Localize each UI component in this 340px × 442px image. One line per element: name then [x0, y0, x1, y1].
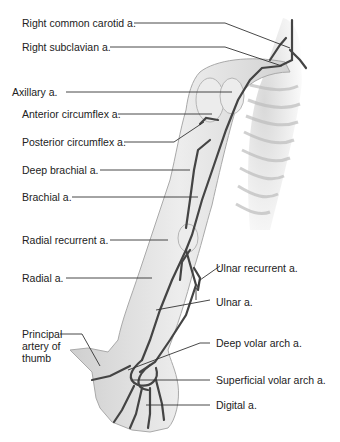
- label-principal-artery-thumb: Principal artery of thumb: [22, 328, 72, 364]
- label-radial-recurrent: Radial recurrent a.: [22, 234, 108, 246]
- label-deep-brachial: Deep brachial a.: [22, 164, 98, 176]
- label-superficial-volar-arch: Superficial volar arch a.: [216, 374, 326, 386]
- label-brachial: Brachial a.: [22, 191, 72, 203]
- label-right-subclavian: Right subclavian a.: [22, 41, 111, 53]
- label-right-common-carotid: Right common carotid a.: [22, 17, 136, 29]
- label-axillary: Axillary a.: [12, 86, 58, 98]
- label-anterior-circumflex: Anterior circumflex a.: [22, 108, 121, 120]
- label-radial: Radial a.: [22, 272, 63, 284]
- label-deep-volar-arch: Deep volar arch a.: [216, 337, 302, 349]
- label-digital: Digital a.: [216, 399, 257, 411]
- label-ulnar-recurrent: Ulnar recurrent a.: [216, 262, 298, 274]
- label-posterior-circumflex: Posterior circumflex a.: [22, 136, 126, 148]
- arm-arteries-diagram: Right common carotid a. Right subclavian…: [0, 0, 340, 442]
- label-ulnar: Ulnar a.: [216, 296, 253, 308]
